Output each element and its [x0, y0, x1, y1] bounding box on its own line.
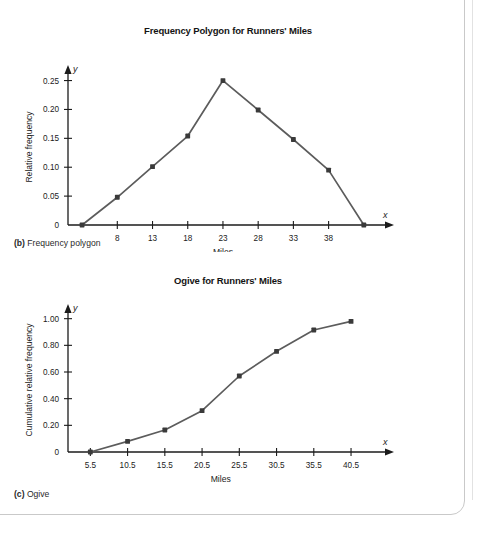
data-point-marker — [115, 195, 120, 200]
x-tick-label: 5.5 — [85, 461, 97, 470]
figure-caption-b-text: Frequency polygon — [25, 238, 100, 248]
data-point-marker — [291, 137, 296, 142]
y-tick-label: 0 — [54, 448, 59, 457]
y-tick-label: 1.00 — [43, 315, 59, 324]
figure-caption-c-tag: (c) — [14, 489, 25, 499]
y-axis-title: Relative frequency — [24, 111, 34, 183]
data-point-marker — [221, 78, 226, 83]
y-tick-label: 0 — [54, 221, 59, 230]
figure-caption-c: (c) Ogive — [14, 489, 49, 499]
data-point-marker — [361, 223, 366, 228]
y-tick-label: 0.15 — [43, 134, 59, 143]
x-tick-label: 38 — [324, 234, 334, 243]
x-axis-title: Miles — [213, 247, 233, 252]
x-tick-label: 28 — [254, 234, 264, 243]
data-point-marker — [200, 408, 205, 413]
x-tick-label: 20.5 — [194, 461, 210, 470]
y-tick-label: 0.80 — [43, 341, 59, 350]
y-tick-label: 0.05 — [43, 192, 59, 201]
x-tick-label: 15.5 — [157, 461, 173, 470]
column-rule — [472, 0, 473, 500]
data-point-marker — [150, 164, 155, 169]
figure-caption-b-tag: (b) — [14, 238, 25, 248]
x-axis-letter: x — [382, 437, 388, 447]
data-point-marker — [185, 134, 190, 139]
frequency-polygon-plot: yx00.050.100.150.200.258131823283338Mile… — [0, 14, 470, 252]
y-tick-label: 0.60 — [43, 368, 59, 377]
figure-caption-c-text: Ogive — [25, 489, 50, 499]
data-series-line — [90, 321, 351, 452]
figure-frequency-polygon: Frequency Polygon for Runners' Miles yx0… — [0, 14, 470, 262]
x-axis-arrow-icon — [385, 448, 394, 455]
y-tick-label: 0.10 — [43, 163, 59, 172]
y-tick-label: 0.20 — [43, 421, 59, 430]
y-axis-letter: y — [72, 64, 78, 74]
data-series-line — [82, 81, 364, 225]
x-axis-letter: x — [382, 210, 388, 220]
x-tick-label: 18 — [183, 234, 193, 243]
x-tick-label: 30.5 — [269, 461, 285, 470]
x-tick-label: 33 — [289, 234, 299, 243]
x-tick-label: 8 — [115, 234, 120, 243]
y-tick-label: 0.40 — [43, 395, 59, 404]
figure-caption-b: (b) Frequency polygon — [14, 238, 100, 248]
x-tick-label: 23 — [218, 234, 228, 243]
data-point-marker — [256, 108, 261, 113]
y-tick-label: 0.25 — [43, 77, 59, 86]
y-axis-title: Cumulative relative frequency — [24, 323, 34, 437]
data-point-marker — [88, 450, 93, 455]
data-point-marker — [125, 439, 130, 444]
x-tick-label: 13 — [148, 234, 158, 243]
x-axis-title: Miles — [211, 474, 231, 484]
x-tick-label: 35.5 — [306, 461, 322, 470]
data-point-marker — [237, 374, 242, 379]
y-tick-label: 0.20 — [43, 105, 59, 114]
data-point-marker — [162, 428, 167, 433]
data-point-marker — [274, 349, 279, 354]
data-point-marker — [311, 328, 316, 333]
figure-ogive: Ogive for Runners' Miles yx00.200.400.60… — [0, 266, 470, 516]
x-tick-label: 10.5 — [120, 461, 136, 470]
y-axis-letter: y — [72, 303, 78, 313]
y-axis-arrow-icon — [64, 65, 71, 74]
data-point-marker — [80, 223, 85, 228]
x-axis-arrow-icon — [385, 221, 394, 228]
y-axis-arrow-icon — [64, 304, 71, 313]
data-point-marker — [326, 168, 331, 173]
x-tick-label: 40.5 — [343, 461, 359, 470]
x-tick-label: 25.5 — [231, 461, 247, 470]
data-point-marker — [349, 319, 354, 324]
ogive-plot: yx00.200.400.600.801.005.510.515.520.525… — [0, 266, 470, 506]
